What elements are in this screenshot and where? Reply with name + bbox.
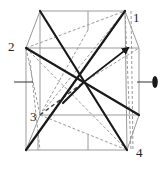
vertex-label-1: 1 <box>133 10 140 25</box>
two-fold-axis-icon <box>152 76 158 88</box>
cube-diagram: 1 2 3 4 <box>0 0 166 169</box>
vertex-label-3: 3 <box>30 109 37 124</box>
vertex-label-2: 2 <box>8 39 15 54</box>
rotation-arrow <box>84 48 128 82</box>
vertex-label-4: 4 <box>136 145 143 160</box>
body-diagonals <box>26 11 139 150</box>
